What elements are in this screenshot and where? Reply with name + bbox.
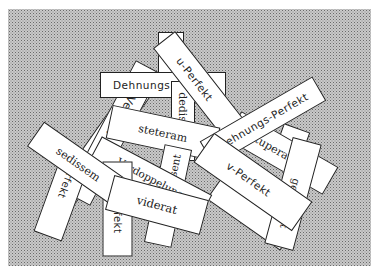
card-label: Dehnungs — [113, 79, 170, 91]
stippled-background: Verdoppelung tutuperavi Dehnungs dedisti… — [8, 9, 371, 266]
card-label: steteram — [137, 121, 188, 144]
scattered-cards-illustration: Verdoppelung tutuperavi Dehnungs dedisti… — [0, 0, 379, 274]
card-label: viderat — [135, 193, 179, 217]
